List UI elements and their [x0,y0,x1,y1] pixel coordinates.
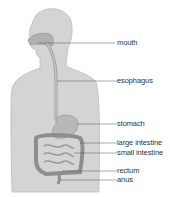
digestive-system-diagram [0,0,170,197]
label-esophagus: esophagus [117,76,153,85]
rectum-organ [58,172,60,184]
label-small-intestine: small intestine [117,148,163,157]
label-mouth: mouth [117,38,137,47]
label-large-intestine: large intestine [117,138,162,147]
label-rectum: rectum [117,166,139,175]
label-stomach: stomach [117,119,145,128]
label-anus: anus [117,175,133,184]
